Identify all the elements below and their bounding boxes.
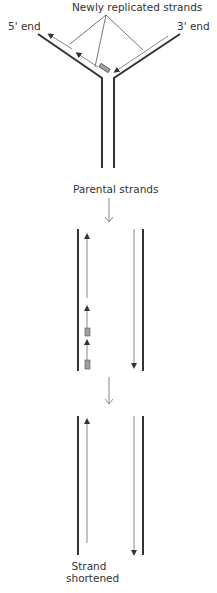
new-strand-left-1 [50, 35, 72, 49]
new-strand-right [116, 36, 168, 71]
label-pointer-lines [70, 15, 143, 67]
new-strand-left-2 [78, 54, 98, 67]
rna-primer-2 [85, 360, 90, 369]
stage-lagging-with-primers [78, 229, 143, 371]
dna-replication-diagram [0, 0, 217, 593]
rna-primer-1 [85, 328, 90, 336]
rna-primer-fork [99, 63, 110, 72]
stage-strand-shortened [78, 416, 143, 555]
replication-fork [38, 15, 180, 168]
parental-strand-right [114, 34, 180, 168]
parental-strand-left [38, 34, 102, 168]
